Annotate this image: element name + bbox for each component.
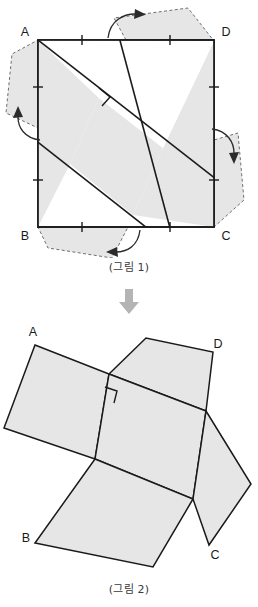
dashed-flap-top xyxy=(114,8,214,41)
figure1-vertex-label-D: D xyxy=(221,25,230,39)
square-left xyxy=(4,345,109,459)
figure-1-caption: (그림 1) xyxy=(0,258,258,274)
figure-2-block: A D B C (그림 2) xyxy=(0,318,258,607)
transition-arrow-block xyxy=(0,286,258,318)
down-arrow-shape xyxy=(119,289,139,314)
figure-page: A D B C (그림 1) A xyxy=(0,0,258,607)
figure1-vertex-label-C: C xyxy=(221,229,230,243)
figure2-vertex-label-C: C xyxy=(210,548,219,562)
down-arrow-icon xyxy=(116,287,142,317)
figure-2-svg: A D B C xyxy=(0,318,258,580)
pinwheel-squares-group xyxy=(4,338,251,567)
shaded-regions-group xyxy=(38,40,214,227)
figure1-vertex-label-B: B xyxy=(21,229,29,243)
figure2-vertex-label-A: A xyxy=(29,325,38,339)
figure-1-block: A D B C (그림 1) xyxy=(0,0,258,285)
figure-2-caption: (그림 2) xyxy=(0,580,258,596)
figure1-vertex-label-A: A xyxy=(21,25,30,39)
figure-1-svg: A D B C xyxy=(0,0,258,258)
figure2-vertex-label-D: D xyxy=(213,337,222,351)
figure2-vertex-label-B: B xyxy=(22,531,30,545)
